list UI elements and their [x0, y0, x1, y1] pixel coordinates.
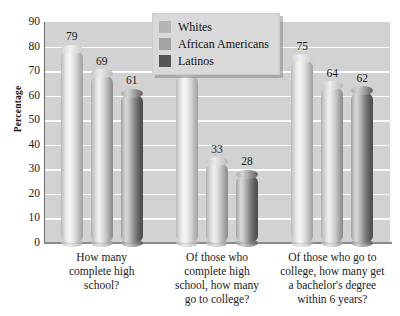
bar-body [91, 74, 113, 243]
y-tick-label: 60 [14, 90, 40, 102]
bar-body [291, 59, 313, 243]
legend-item: African Americans [159, 35, 269, 52]
bar-chart: Percentage 9080706050403020100 796961693… [0, 0, 400, 316]
bar-body [61, 49, 83, 243]
legend: WhitesAfrican AmericansLatinos [152, 13, 280, 75]
category-label-line: complete high [46, 264, 157, 278]
category-label-line: Of those who go to [277, 250, 388, 264]
category-label-line: college, how many get [277, 264, 388, 278]
legend-item: Whites [159, 18, 269, 35]
y-tick-label: 20 [14, 188, 40, 200]
bar-value-label: 61 [126, 75, 138, 87]
bar-body [206, 162, 228, 243]
bar-value-label: 33 [211, 144, 223, 156]
bar [236, 174, 258, 243]
category-label-line: school? [46, 278, 157, 292]
y-tick-label: 30 [14, 163, 40, 175]
category-label: How manycomplete highschool? [46, 250, 157, 292]
y-tick-label: 90 [14, 16, 40, 28]
bar [61, 49, 83, 243]
y-axis-tick-labels: 9080706050403020100 [8, 0, 40, 316]
legend-label: Latinos [178, 55, 214, 67]
bar-value-label: 28 [241, 156, 253, 168]
bar [291, 59, 313, 243]
category-label-line: within 6 years? [277, 292, 388, 306]
bar-value-label: 75 [297, 41, 309, 53]
legend-label: African Americans [178, 38, 269, 50]
bar-top-ellipse [61, 45, 83, 54]
bar-value-label: 64 [327, 68, 339, 80]
y-tick-label: 40 [14, 139, 40, 151]
y-tick-label: 70 [14, 65, 40, 77]
category-label-line: school, how many [161, 278, 272, 292]
bar-body [176, 74, 198, 243]
y-tick-label: 80 [14, 41, 40, 53]
bar-body [351, 91, 373, 243]
legend-swatch-icon [159, 21, 171, 33]
bar-top-ellipse [236, 170, 258, 179]
bar [351, 91, 373, 243]
bar-value-label: 69 [96, 56, 108, 68]
bar-top-ellipse [121, 89, 143, 98]
bar [321, 86, 343, 243]
category-label-line: go to college? [161, 292, 272, 306]
bar-value-label: 62 [357, 73, 369, 85]
bar-body [121, 93, 143, 243]
category-label-line: complete high [161, 264, 272, 278]
legend-item: Latinos [159, 52, 269, 69]
category-label-line: a bachelor's degree [277, 278, 388, 292]
y-tick-label: 10 [14, 212, 40, 224]
category-label-line: Of those who [161, 250, 272, 264]
y-tick-label: 0 [14, 237, 40, 249]
bar-value-label: 79 [66, 31, 78, 43]
category-label-line: How many [46, 250, 157, 264]
bar-top-ellipse [91, 69, 113, 78]
category-label: Of those whocomplete highschool, how man… [161, 250, 272, 306]
legend-swatch-icon [159, 55, 171, 67]
y-tick-label: 50 [14, 114, 40, 126]
bar [91, 74, 113, 243]
bar [206, 162, 228, 243]
category-label: Of those who go tocollege, how many geta… [277, 250, 388, 306]
bar-body [236, 174, 258, 243]
legend-swatch-icon [159, 38, 171, 50]
bar [121, 93, 143, 243]
legend-label: Whites [178, 21, 212, 33]
bar-body [321, 86, 343, 243]
bar [176, 74, 198, 243]
